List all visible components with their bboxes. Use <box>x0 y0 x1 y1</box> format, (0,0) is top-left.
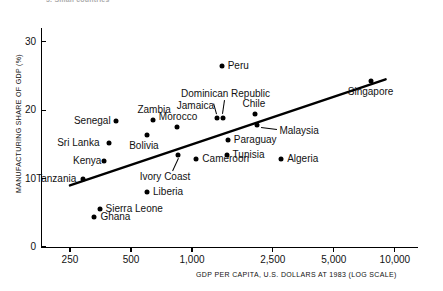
data-point-paraguay[interactable] <box>225 138 230 143</box>
y-tick-label-0: 0 <box>8 241 36 252</box>
x-tick-label-1000: 1,000 <box>180 254 205 265</box>
y-tick-30 <box>41 41 46 42</box>
x-tick-label-250: 250 <box>62 254 79 265</box>
point-label-tanzania: Tanzania <box>36 174 76 184</box>
figure-scatter-plot: 3. Small countries MANUFACTURING SHARE O… <box>0 0 443 291</box>
point-label-paraguay: Paraguay <box>234 135 277 145</box>
leader-line-malaysia <box>261 127 277 130</box>
data-point-peru[interactable] <box>219 64 224 69</box>
data-point-sri-lanka[interactable] <box>107 140 112 145</box>
data-point-zambia[interactable] <box>150 117 155 122</box>
x-tick-10000 <box>394 247 395 252</box>
y-axis-line <box>41 28 42 248</box>
point-label-singapore: Singapore <box>348 87 394 97</box>
x-tick-label-2500: 2,500 <box>260 254 285 265</box>
x-axis-title: GDP PER CAPITA, U.S. DOLLARS AT 1983 (LO… <box>196 271 397 278</box>
y-tick-label-10: 10 <box>8 173 36 184</box>
leader-line-dominican-republic <box>222 100 225 114</box>
point-label-peru: Peru <box>228 61 249 71</box>
point-label-tunisia: Tunisia <box>233 150 265 160</box>
data-point-cameroon[interactable] <box>194 157 199 162</box>
data-point-chile[interactable] <box>253 112 258 117</box>
data-point-sierra-leone[interactable] <box>97 206 102 211</box>
data-point-algeria[interactable] <box>279 157 284 162</box>
data-point-tunisia[interactable] <box>224 153 229 158</box>
x-tick-1000 <box>191 247 192 252</box>
data-point-tanzania[interactable] <box>81 176 86 181</box>
point-label-sri-lanka: Sri Lanka <box>57 138 99 148</box>
y-tick-0 <box>41 246 46 247</box>
data-point-kenya[interactable] <box>102 158 107 163</box>
x-tick-250 <box>69 247 70 252</box>
point-label-jamaica: Jamaica <box>177 101 214 111</box>
plot-area: MANUFACTURING SHARE OF GDP (%) GDP PER C… <box>0 0 443 291</box>
y-tick-label-20: 20 <box>8 104 36 115</box>
point-label-senegal: Senegal <box>74 116 111 126</box>
x-tick-label-500: 500 <box>123 254 140 265</box>
data-point-malaysia[interactable] <box>255 123 260 128</box>
data-point-jamaica[interactable] <box>214 115 219 120</box>
y-tick-20 <box>41 110 46 111</box>
y-tick-label-30: 30 <box>8 36 36 47</box>
data-point-morocco[interactable] <box>174 124 179 129</box>
x-tick-2500 <box>272 247 273 252</box>
x-tick-500 <box>130 247 131 252</box>
data-point-bolivia[interactable] <box>145 133 150 138</box>
point-label-sierra-leone: Sierra Leone <box>106 204 163 214</box>
point-label-bolivia: Bolivia <box>129 141 158 151</box>
point-label-malaysia: Malaysia <box>279 126 318 136</box>
point-label-ivory-coast: Ivory Coast <box>140 172 191 182</box>
point-label-liberia: Liberia <box>153 187 183 197</box>
x-tick-label-10000: 10,000 <box>380 254 411 265</box>
x-axis-line <box>41 247 418 248</box>
point-label-kenya: Kenya <box>73 156 101 166</box>
data-point-dominican-republic[interactable] <box>220 115 225 120</box>
data-point-liberia[interactable] <box>145 190 150 195</box>
point-label-chile: Chile <box>243 99 266 109</box>
point-label-morocco: Morocco <box>159 112 197 122</box>
data-point-ghana[interactable] <box>92 214 97 219</box>
point-label-dominican-republic: Dominican Republic <box>181 89 270 99</box>
data-point-singapore[interactable] <box>368 78 373 83</box>
x-tick-label-5000: 5,000 <box>321 254 346 265</box>
point-label-algeria: Algeria <box>287 154 318 164</box>
leader-line-ivory-coast <box>172 158 179 171</box>
x-tick-5000 <box>333 247 334 252</box>
data-point-senegal[interactable] <box>113 119 118 124</box>
